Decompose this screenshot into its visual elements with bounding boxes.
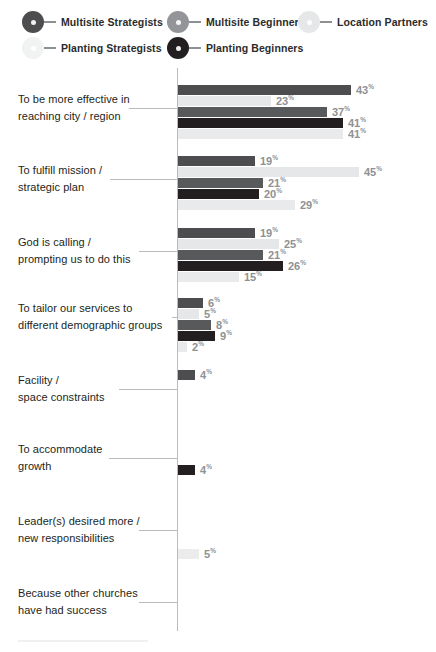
bar-value-label: 5% [204,307,216,320]
category-leader-line [109,458,178,459]
category-leader-line [110,179,178,180]
category-label-line: To accommodate [18,441,168,458]
bar-value-number: 37 [332,106,344,118]
percent-sign-icon: % [222,318,228,325]
bar[interactable] [178,342,187,352]
percent-sign-icon: % [206,463,212,470]
percent-sign-icon: % [280,248,286,255]
bar[interactable] [178,107,327,117]
series-marker-icon [167,11,189,33]
bar-value-number: 21 [268,249,280,261]
category-label-line: To be more effective in [18,91,168,108]
legend-connector-line [44,47,56,49]
legend-item[interactable]: Planting Beginners [167,37,303,59]
legend-item-label: Location Partners [337,16,428,28]
category-label-line: Facility / [18,372,168,389]
bar[interactable] [178,272,239,282]
bar[interactable] [178,118,343,128]
percent-sign-icon: % [344,105,350,112]
series-marker-icon [22,37,44,59]
bar-value-label: 15% [244,270,262,283]
bar[interactable] [178,96,271,106]
legend-item-label: Multisite Beginners [206,16,305,28]
bar-value-number: 26 [288,260,300,272]
percent-sign-icon: % [272,154,278,161]
category-label-line: prompting us to do this [18,251,168,268]
bar[interactable] [178,228,255,238]
bar-value-label: 19% [260,154,278,167]
category-label-line: reaching city / region [18,108,168,125]
percent-sign-icon: % [226,329,232,336]
bar-value-label: 45% [364,165,382,178]
series-marker-icon [167,37,189,59]
bar-value-number: 15 [244,271,256,283]
category-label-line: Leader(s) desired more / [18,513,168,530]
bar-value-label: 4% [200,368,212,381]
percent-sign-icon: % [210,547,216,554]
bar-value-number: 19 [260,155,272,167]
percent-sign-icon: % [256,270,262,277]
bar[interactable] [178,320,211,330]
legend-connector-line [320,21,332,23]
bar-value-number: 41 [348,128,360,140]
category-leader-line [119,389,178,390]
category-leader-line [139,530,178,531]
chart-legend: Multisite StrategistsMultisite Beginners… [0,0,436,68]
bar[interactable] [178,465,195,475]
legend-item-label: Planting Beginners [206,42,303,54]
category-label-line: Because other churches [18,585,168,602]
bar-value-label: 26% [288,259,306,272]
legend-item-label: Planting Strategists [61,42,162,54]
percent-sign-icon: % [210,307,216,314]
bar-value-label: 19% [260,226,278,239]
category-leader-line [139,251,178,252]
category-label-line: space constraints [18,389,168,406]
legend-item-label: Multisite Strategists [61,16,163,28]
bar[interactable] [178,189,259,199]
percent-sign-icon: % [296,237,302,244]
category-label-line: strategic plan [18,179,168,196]
percent-sign-icon: % [272,226,278,233]
bar[interactable] [178,200,295,210]
legend-item[interactable]: Multisite Strategists [22,11,163,33]
legend-item[interactable]: Planting Strategists [22,37,162,59]
percent-sign-icon: % [368,83,374,90]
percent-sign-icon: % [360,116,366,123]
bar[interactable] [178,129,343,139]
bar-value-label: 2% [192,340,204,353]
category-label-line: God is calling / [18,234,168,251]
legend-connector-line [44,21,56,23]
bar[interactable] [178,250,263,260]
category-label-line: To fulfill mission / [18,162,168,179]
category-label-line: To tailor our services to [18,300,168,317]
legend-item[interactable]: Location Partners [298,11,428,33]
legend-item[interactable]: Multisite Beginners [167,11,305,33]
series-marker-icon [22,11,44,33]
bar-value-label: 9% [220,329,232,342]
percent-sign-icon: % [360,127,366,134]
category-label-line: new responsibilities [18,530,168,547]
bar-value-number: 29 [300,199,312,211]
footer-rule [18,640,148,642]
percent-sign-icon: % [312,198,318,205]
category-label: To tailor our services todifferent demog… [18,300,168,333]
bar-value-label: 41% [348,127,366,140]
category-label-line: different demographic groups [18,317,168,334]
bar[interactable] [178,85,351,95]
category-leader-line [139,602,178,603]
bar-value-number: 20 [264,188,276,200]
series-marker-icon [298,11,320,33]
percent-sign-icon: % [300,259,306,266]
bar[interactable] [178,370,195,380]
bar[interactable] [178,239,279,249]
bar[interactable] [178,549,199,559]
bar[interactable] [178,156,255,166]
bar-value-number: 43 [356,84,368,96]
bar[interactable] [178,178,263,188]
bar[interactable] [178,309,199,319]
bar[interactable] [178,298,203,308]
bar-value-label: 21% [268,248,286,261]
percent-sign-icon: % [276,187,282,194]
percent-sign-icon: % [376,165,382,172]
bar[interactable] [178,261,283,271]
